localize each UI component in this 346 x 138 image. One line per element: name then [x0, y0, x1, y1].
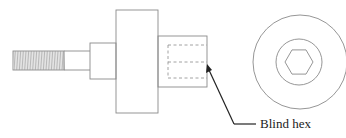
thread-crest — [41, 51, 42, 70]
thread-crest — [40, 51, 41, 70]
thread-crest — [16, 51, 17, 70]
hex-socket-icon — [285, 50, 313, 74]
callout-label: Blind hex — [260, 116, 311, 131]
thread-crest — [33, 51, 34, 70]
thread-crest — [17, 51, 18, 70]
thread-crest — [22, 51, 23, 70]
thread-crest — [59, 51, 60, 70]
thread-crest — [35, 51, 36, 70]
thread-crest — [48, 51, 49, 70]
thread-crest — [56, 51, 57, 70]
thread-crest — [24, 51, 25, 70]
hex-head-body — [158, 36, 207, 87]
thread-crest — [44, 51, 45, 70]
thread-crest — [25, 51, 26, 70]
blind-hex-hidden-lines — [168, 45, 207, 78]
thread-crest — [49, 51, 50, 70]
step-collar — [90, 43, 116, 79]
bolt-drawing: Blind hex — [0, 0, 346, 138]
thread-crest — [27, 51, 28, 70]
threaded-section — [13, 51, 64, 70]
thread-crest — [38, 51, 39, 70]
thread-crest — [54, 51, 55, 70]
thread-crest — [28, 51, 29, 70]
thread-crest — [60, 51, 61, 70]
end-view-inner-circle — [276, 39, 322, 85]
thread-crest — [36, 51, 37, 70]
end-view-outer-circle — [253, 15, 346, 109]
arrowhead-icon — [206, 64, 212, 73]
thread-crest — [52, 51, 53, 70]
thread-crest — [43, 51, 44, 70]
thread-crest — [46, 51, 47, 70]
thread-crest — [62, 51, 63, 70]
end-view — [253, 15, 346, 109]
main-flange — [116, 10, 158, 113]
thread-crest — [57, 51, 58, 70]
shank — [64, 51, 90, 70]
thread-crest — [19, 51, 20, 70]
thread-crest — [14, 51, 15, 70]
leader-line — [209, 70, 234, 124]
thread-crest — [20, 51, 21, 70]
thread-crest — [32, 51, 33, 70]
thread-crest — [30, 51, 31, 70]
thread-crest — [51, 51, 52, 70]
